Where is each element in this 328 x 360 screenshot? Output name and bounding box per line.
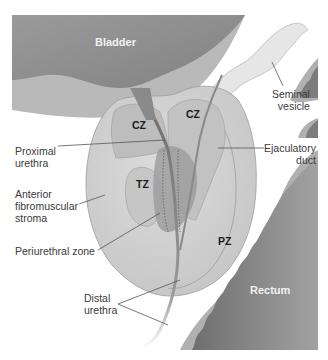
proximal-urethra-label: Proximal urethra xyxy=(15,145,56,169)
distal-urethra-line-1: Distal xyxy=(84,292,117,304)
periurethral-zone-line-1: Periurethral zone xyxy=(15,245,95,257)
ejaculatory-duct-label: Ejaculatory duct xyxy=(264,142,316,166)
periurethral-zone-label: Periurethral zone xyxy=(15,245,95,257)
ejaculatory-duct-line-1: Ejaculatory xyxy=(264,142,316,154)
distal-urethra-line-2: urethra xyxy=(84,304,117,316)
cz-right-label: CZ xyxy=(186,108,200,120)
pz-label: PZ xyxy=(218,235,231,247)
seminal-vesicle-line-2: vesicle xyxy=(272,100,310,112)
leader-seminal-vesicle xyxy=(272,62,283,86)
seminal-vesicle-label: Seminal vesicle xyxy=(272,88,310,112)
anterior-stroma-line-3: stroma xyxy=(15,212,78,224)
anterior-stroma-line-2: fibromuscular xyxy=(15,200,78,212)
distal-urethra-label: Distal urethra xyxy=(84,292,117,316)
leader-distal-urethra-2 xyxy=(118,304,168,325)
proximal-urethra-line-2: urethra xyxy=(15,157,56,169)
anterior-stroma-line-1: Anterior xyxy=(15,188,78,200)
prostate-anatomy-illustration xyxy=(0,0,328,360)
anterior-fibromuscular-stroma-label: Anterior fibromuscular stroma xyxy=(15,188,78,224)
seminal-vesicle-line-1: Seminal xyxy=(272,88,310,100)
bladder-label: Bladder xyxy=(95,36,136,48)
ejaculatory-duct-line-2: duct xyxy=(264,154,316,166)
rectum-label: Rectum xyxy=(250,284,290,296)
proximal-urethra-line-1: Proximal xyxy=(15,145,56,157)
cz-left-label: CZ xyxy=(132,119,146,131)
tz-label: TZ xyxy=(136,178,149,190)
